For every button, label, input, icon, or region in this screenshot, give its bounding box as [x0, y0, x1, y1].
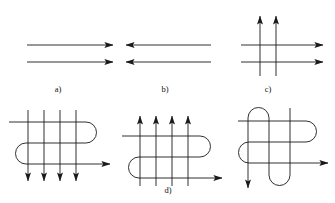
panel-a: a)	[27, 45, 113, 94]
panel-b: b)	[126, 45, 211, 94]
panel-bottom-right	[238, 108, 328, 189]
panel-b-label: b)	[161, 84, 168, 94]
panel-c-label: c)	[265, 84, 272, 94]
figure-canvas: a) b) c)	[0, 0, 335, 203]
panel-a-label: a)	[55, 84, 62, 94]
panel-d-label: d)	[164, 185, 171, 195]
panel-bottom-right-horizontal-meander	[238, 121, 328, 163]
diagram-svg: a) b) c)	[0, 0, 335, 203]
panel-d: d)	[122, 116, 222, 195]
panel-bottom-right-vertical-meander	[248, 108, 290, 189]
panel-bottom-left-meander-curve	[9, 122, 110, 164]
panel-bottom-left	[9, 110, 110, 181]
panel-c: c)	[241, 16, 323, 94]
